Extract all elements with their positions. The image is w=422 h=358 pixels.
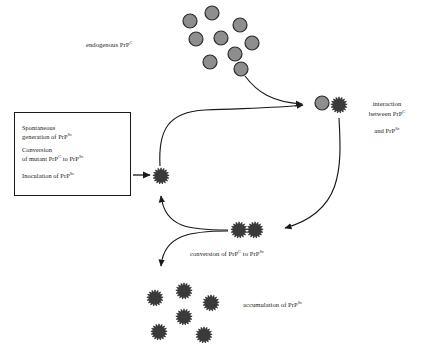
prp-sc-particle [176,283,192,299]
origin-line-conversion: Conversion of mutant PrPC to PrPSc [22,146,83,163]
prp-sc-particle [231,222,247,238]
superscript-sc: Sc [68,131,73,136]
prp-sc-particle [147,290,163,306]
prp-c-particle [203,55,217,69]
prp-c-particle [315,96,329,110]
interaction-label: interaction between PrPC and PrPSc [356,99,418,136]
prp-sc-particle [203,295,219,311]
prp-c-particle [233,18,247,32]
prp-c-particle [205,6,219,20]
superscript-c: C [402,109,405,114]
origin-line-inoculation: Inoculation of PrPSc [22,172,74,181]
prp-sc-particle [247,222,263,238]
prp-c-particle [245,36,259,50]
conversion-label: conversion of PrPC to PrPSc [190,249,264,259]
origin-mechanisms-box: Spontaneous generation of PrPSc Conversi… [14,112,131,196]
endogenous-prp-c-cluster [183,6,259,76]
prp-sc-particle [196,327,212,343]
prp-c-particle [189,32,203,46]
prp-c-particle [183,14,197,28]
superscript-c: C [129,40,132,45]
prp-c-particle [234,62,248,76]
prp-c-particle [228,47,242,61]
endogenous-prp-c-label: endogenous PrPC [86,40,132,50]
prp-c-particle [214,31,228,45]
prp-sc-particle [151,324,167,340]
accumulation-prp-sc-cluster [147,283,219,343]
prion-conversion-diagram: Spontaneous generation of PrPSc Conversi… [0,0,422,358]
prp-sc-particle [331,97,347,113]
superscript-sc: Sc [259,249,264,254]
seed-prp-sc-particle [153,168,169,184]
conversion-pair [231,222,263,238]
superscript-sc: Sc [70,171,75,176]
superscript-sc: Sc [298,300,303,305]
superscript-sc: Sc [395,126,400,131]
accumulation-label: accumulation of PrPSc [243,300,302,310]
interaction-pair [315,96,347,113]
interaction-label-line3: and PrPSc [356,126,418,136]
prp-sc-particle [176,309,192,325]
origin-line-spontaneous: Spontaneous generation of PrPSc [22,124,72,141]
superscript-sc: Sc [79,153,84,158]
